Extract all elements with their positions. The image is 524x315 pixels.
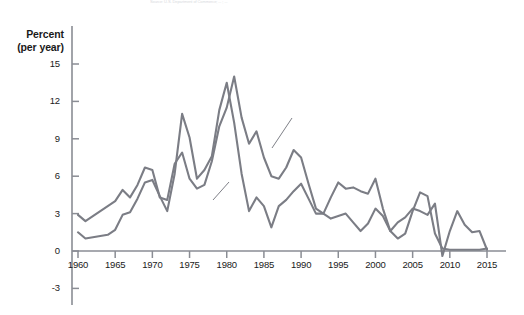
annotation-leader-lines <box>213 118 292 200</box>
x-tick-label: 1960 <box>60 259 96 270</box>
chart-figure: Source: U.S. Department of Commerce; ...… <box>0 0 524 315</box>
series-line-nominal-interest-rate <box>78 76 487 249</box>
annotation-leader-line <box>272 118 292 148</box>
y-tick-label: 9 <box>0 133 60 144</box>
series-line-inflation <box>78 83 487 256</box>
y-tick-label: 0 <box>0 245 60 256</box>
x-tick-label: 1980 <box>209 259 245 270</box>
x-tick-label: 1970 <box>134 259 170 270</box>
x-tick-label: 1975 <box>172 259 208 270</box>
y-tick-label: 15 <box>0 58 60 69</box>
y-axis-title-line1: Percent <box>0 28 64 40</box>
y-tick-label: 6 <box>0 170 60 181</box>
series-group <box>78 76 487 256</box>
x-tick-label: 2005 <box>395 259 431 270</box>
y-tick-label: -3 <box>0 282 60 293</box>
x-tick-label: 1990 <box>283 259 319 270</box>
x-tick-label: 2015 <box>469 259 505 270</box>
x-tick-label: 1995 <box>320 259 356 270</box>
x-tick-label: 1965 <box>97 259 133 270</box>
annotation-leader-line <box>213 182 229 200</box>
x-tick-label: 1985 <box>246 259 282 270</box>
x-tick-label: 2010 <box>432 259 468 270</box>
y-tick-label: 12 <box>0 95 60 106</box>
y-axis-title-line2: (per year) <box>0 41 64 53</box>
x-tick-label: 2000 <box>357 259 393 270</box>
source-note: Source: U.S. Department of Commerce; ...… <box>150 0 350 6</box>
y-tick-label: 3 <box>0 208 60 219</box>
